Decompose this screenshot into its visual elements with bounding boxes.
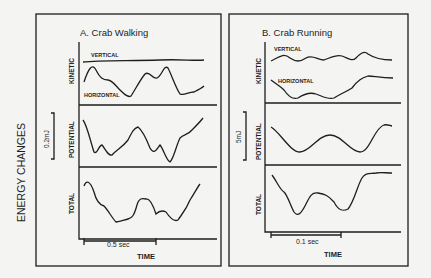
panel-b-energy-scale-label: 5mJ [235,131,242,143]
panel-a-horizontal-label: HORIZONTAL [84,92,120,98]
panel-a-potential-label: POTENTIAL [68,121,75,158]
panel-a-title: A. Crab Walking [80,27,148,38]
panel-a-vertical-kinetic-curve [83,60,204,62]
panel-b-axes [265,42,401,232]
panel-a-energy-scale-label: 0.2mJ [43,130,50,148]
panel-b-potential-curve [271,125,392,152]
panel-a-x-label: TIME [137,252,155,261]
panel-a-time-scale-label: 0.5 sec [107,241,130,248]
panel-a-kinetic-label: KINETIC [68,58,75,84]
panel-b-potential-label: POTENTIAL [255,123,262,160]
panel-a-potential-curve [83,118,203,162]
panel-a-energy-scale-bar [51,113,54,159]
panel-b-vertical-label: VERTICAL [274,46,302,52]
panel-b-vertical-kinetic-curve [271,52,392,61]
panel-a-total-curve [84,182,200,222]
energy-changes-figure: ENERGY CHANGES A. Crab Walking KINETIC P… [0,0,431,278]
panel-b-kinetic-label: KINETIC [255,58,262,84]
panel-a-vertical-label: VERTICAL [91,52,119,58]
panel-a-total-label: TOTAL [68,193,75,214]
panel-b-horizontal-label: HORIZONTAL [278,78,314,84]
panel-b-x-label: TIME [324,250,342,259]
panel-b-total-label: TOTAL [255,194,262,215]
panel-b-energy-scale-bar [243,112,246,160]
panel-b-title: B. Crab Running [262,27,332,38]
y-axis-label: ENERGY CHANGES [15,123,27,222]
panel-b-time-scale-label: 0.1 sec [296,238,319,245]
panel-b-total-curve [272,173,392,215]
panel-a-axes [79,42,217,239]
